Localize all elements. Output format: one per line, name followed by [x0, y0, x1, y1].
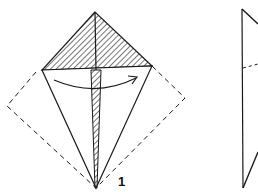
step-2-bottom-edge	[243, 152, 258, 188]
step-2-figure	[242, 9, 258, 188]
step-2-left-edge	[242, 9, 243, 188]
step-2-top-edge	[242, 9, 258, 24]
hatched-top-flap	[42, 12, 152, 70]
step-number-label: 1	[118, 174, 125, 189]
origami-diagram	[0, 0, 258, 195]
step-2-dashed-crease	[243, 64, 258, 68]
step-1-figure	[7, 12, 185, 188]
